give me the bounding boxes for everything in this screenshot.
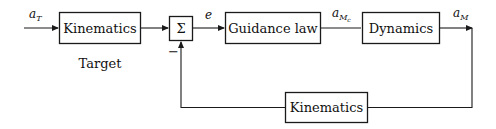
dynamics-block: Dynamics <box>363 13 440 44</box>
guidance-law-block: Guidance law <box>226 13 321 44</box>
signal-label-aMc: aMc <box>332 6 351 23</box>
sigma-symbol: Σ <box>176 21 185 36</box>
feedback-left-line <box>181 42 285 108</box>
block-label: Kinematics <box>63 21 136 36</box>
signal-label-e: e <box>205 8 212 22</box>
minus-sign: − <box>168 44 179 59</box>
feedback-kinematics-block: Kinematics <box>286 93 368 123</box>
block-label: Guidance law <box>228 21 318 36</box>
target-kinematics-block: Kinematics <box>60 13 141 44</box>
block-diagram: aT Kinematics Target Σ − e Guidance law … <box>0 0 496 129</box>
block-label: Dynamics <box>369 21 433 36</box>
signal-label-aT: aT <box>29 7 42 23</box>
block-label: Kinematics <box>290 100 363 115</box>
summing-junction: Σ <box>170 17 193 41</box>
target-caption: Target <box>79 56 123 71</box>
signal-label-aM: aM <box>453 6 469 22</box>
